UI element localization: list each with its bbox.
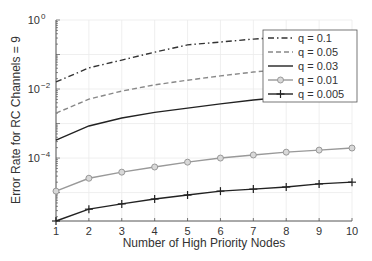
circle-marker [152,164,158,170]
circle-marker [349,145,355,151]
y-tick-exponent: −2 [41,81,51,90]
legend-label: q = 0.05 [298,46,338,58]
x-axis-label: Number of High Priority Nodes [123,236,286,250]
circle-marker [316,147,322,153]
circle-marker [119,169,125,175]
x-tick-label: 10 [346,225,358,237]
circle-marker [53,188,59,194]
series-q0.005 [52,178,356,225]
y-tick-exponent: −4 [41,150,51,159]
circle-marker [86,175,92,181]
x-tick-label: 2 [86,225,92,237]
circle-marker [278,77,284,83]
y-tick-exponent: 0 [41,12,46,21]
y-tick-label: 10 [28,83,40,95]
legend-label: q = 0.01 [298,74,338,86]
legend-label: q = 0.03 [298,60,338,72]
legend-label: q = 0.1 [298,32,332,44]
y-tick-label: 10 [28,152,40,164]
circle-marker [283,149,289,155]
circle-marker [217,155,223,161]
series-q0.01 [53,145,355,194]
x-tick-label: 9 [316,225,322,237]
legend: q = 0.1q = 0.05q = 0.03q = 0.01q = 0.005 [263,30,357,102]
y-axis-label: Error Rate for RC Channels = 9 [9,36,23,204]
y-tick-label: 10 [28,14,40,26]
legend-label: q = 0.005 [298,88,344,100]
circle-marker [185,159,191,165]
line-chart: 1234567891010010−210−4 Number of High Pr… [0,0,372,261]
series-line [56,182,352,221]
circle-marker [250,152,256,158]
x-tick-label: 1 [53,225,59,237]
